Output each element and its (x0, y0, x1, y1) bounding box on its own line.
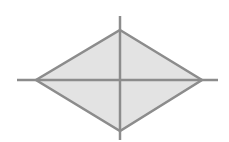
rhombus-diagram (0, 0, 229, 142)
